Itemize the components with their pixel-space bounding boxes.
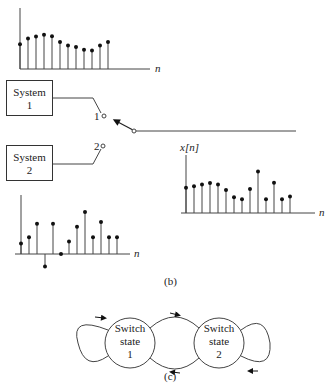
stem-point	[224, 188, 228, 192]
system2-output-plot	[15, 195, 130, 269]
panel-c-caption: (c)	[164, 370, 176, 382]
system-1-box: System 1	[6, 80, 53, 116]
terminal-2-label: 2	[94, 140, 100, 152]
state-2-line1: Switch	[194, 322, 244, 335]
system-1-label: System	[7, 86, 52, 99]
stem-point	[98, 44, 102, 48]
state-1-line1: Switch	[105, 322, 155, 335]
switch-arm[interactable]	[116, 121, 296, 133]
stem-point	[67, 239, 71, 243]
stem-point	[184, 186, 188, 190]
stem-point	[99, 220, 103, 224]
terminal-1-label: 1	[94, 110, 100, 122]
system-2-box: System 2	[6, 145, 53, 181]
stem-point	[43, 265, 47, 269]
stem-point	[208, 181, 212, 185]
stem-point	[216, 182, 220, 186]
panel-b-caption: (b)	[164, 275, 177, 287]
axis-label-n-right: n	[319, 206, 325, 218]
stem-point	[42, 33, 46, 37]
stem-point	[35, 222, 39, 226]
stem-point	[75, 225, 79, 229]
self-loop-state-1	[77, 325, 108, 362]
axis-label-n-top: n	[155, 62, 161, 74]
system-2-label: System	[7, 151, 52, 164]
stem-point	[288, 194, 292, 198]
system-1-number: 1	[7, 99, 52, 112]
stem-point	[264, 197, 268, 201]
stem-point	[240, 197, 244, 201]
stem-point	[34, 35, 38, 39]
stem-point	[82, 48, 86, 52]
state-1-line2: state	[105, 335, 155, 348]
self-loop-state-2	[241, 323, 270, 361]
stem-point	[50, 34, 54, 38]
stem-point	[58, 40, 62, 44]
stem-point	[272, 181, 276, 185]
stem-point	[18, 42, 22, 46]
stem-point	[107, 235, 111, 239]
stem-point	[19, 242, 23, 246]
transition-2-to-1	[150, 358, 199, 369]
stem-point	[51, 222, 55, 226]
stem-point	[66, 44, 70, 48]
state-1-line3: 1	[105, 348, 155, 361]
transition-1-to-2	[150, 317, 199, 328]
output-y-label: x[n]	[180, 141, 199, 153]
stem-point	[256, 170, 260, 174]
system1-output-plot	[18, 8, 150, 69]
axis-label-n-bottom: n	[134, 247, 140, 259]
stem-point	[232, 195, 236, 199]
stem-point	[91, 235, 95, 239]
system-2-number: 2	[7, 164, 52, 177]
stem-point	[83, 210, 87, 214]
state-2-label: Switch state 2	[194, 322, 244, 361]
stem-point	[106, 40, 110, 44]
stem-point	[115, 235, 119, 239]
stem-point	[59, 252, 63, 256]
output-plot	[181, 155, 315, 213]
stem-point	[248, 187, 252, 191]
stem-point	[27, 235, 31, 239]
stem-point	[90, 49, 94, 53]
state-1-label: Switch state 1	[105, 322, 155, 361]
stem-point	[200, 182, 204, 186]
state-2-line2: state	[194, 335, 244, 348]
diagram-canvas	[0, 0, 336, 384]
stem-point	[280, 197, 284, 201]
state-2-line3: 2	[194, 348, 244, 361]
stem-point	[192, 184, 196, 188]
stem-point	[74, 45, 78, 49]
stem-point	[26, 36, 30, 40]
